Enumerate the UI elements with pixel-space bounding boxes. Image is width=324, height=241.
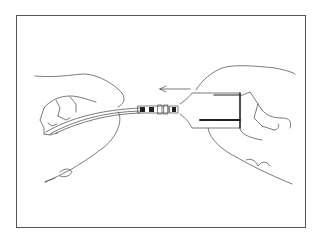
left-hand-icon bbox=[35, 74, 124, 182]
arrow-left-icon bbox=[160, 86, 190, 92]
connector-housing-icon bbox=[180, 93, 240, 128]
plug-connector-icon bbox=[138, 105, 178, 114]
connector-illustration bbox=[0, 0, 324, 241]
right-hand-icon bbox=[196, 66, 295, 184]
cable-icon bbox=[46, 108, 140, 134]
